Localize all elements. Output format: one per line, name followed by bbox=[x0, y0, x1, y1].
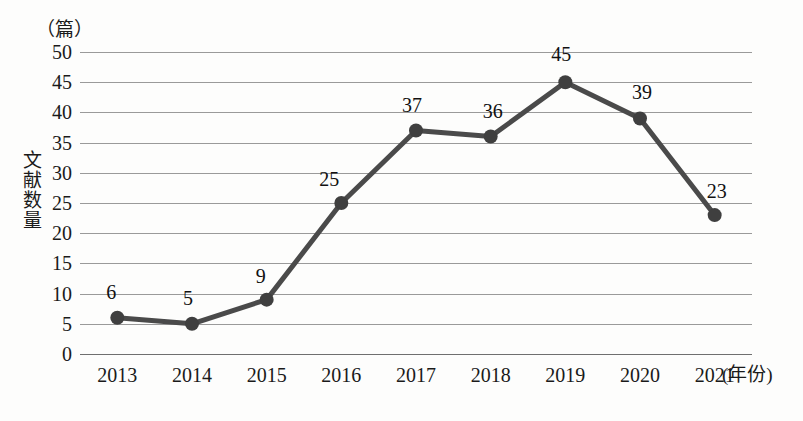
data-label: 25 bbox=[319, 169, 339, 189]
y-axis-tick: 20 bbox=[26, 223, 72, 243]
chart-figure: （篇） 文献数量 50454035302520151050 6592537364… bbox=[0, 0, 803, 421]
x-axis-tick: 2013 bbox=[82, 363, 152, 387]
data-label: 36 bbox=[483, 101, 503, 121]
data-point bbox=[334, 196, 348, 210]
y-axis-tick: 30 bbox=[26, 163, 72, 183]
data-point bbox=[633, 111, 647, 125]
data-point bbox=[558, 75, 572, 89]
data-label: 37 bbox=[402, 95, 422, 115]
plot-area: 659253736453923 bbox=[80, 52, 752, 354]
data-point bbox=[260, 293, 274, 307]
y-axis-tick: 40 bbox=[26, 102, 72, 122]
data-label: 23 bbox=[707, 181, 727, 201]
y-axis-tick-labels: 50454035302520151050 bbox=[22, 52, 72, 354]
y-axis-tick: 0 bbox=[26, 344, 72, 364]
y-axis-tick: 50 bbox=[26, 42, 72, 62]
x-axis-tick: 2015 bbox=[232, 363, 302, 387]
data-label: 45 bbox=[551, 44, 571, 64]
x-axis-unit-label: (年份) bbox=[722, 363, 773, 387]
data-point bbox=[110, 311, 124, 325]
y-axis-tick: 10 bbox=[26, 284, 72, 304]
y-axis-tick: 25 bbox=[26, 193, 72, 213]
x-axis-tick: 2014 bbox=[157, 363, 227, 387]
y-axis-tick: 35 bbox=[26, 133, 72, 153]
data-point bbox=[409, 124, 423, 138]
data-label: 39 bbox=[632, 82, 652, 102]
x-axis-tick: 2016 bbox=[306, 363, 376, 387]
x-axis-tick-labels: 201320142015201620172018201920202021 bbox=[80, 363, 752, 393]
data-point bbox=[708, 208, 722, 222]
x-axis-tick: 2018 bbox=[456, 363, 526, 387]
data-point bbox=[185, 317, 199, 331]
y-axis-tick: 5 bbox=[26, 314, 72, 334]
gridline bbox=[80, 354, 752, 355]
y-axis-unit-label: （篇） bbox=[36, 14, 93, 41]
data-label: 9 bbox=[256, 266, 266, 286]
x-axis-tick: 2017 bbox=[381, 363, 451, 387]
y-axis-tick: 45 bbox=[26, 72, 72, 92]
series-polyline bbox=[117, 82, 714, 324]
data-point bbox=[484, 130, 498, 144]
x-axis-tick: 2019 bbox=[530, 363, 600, 387]
data-label: 5 bbox=[183, 288, 193, 308]
y-axis-tick: 15 bbox=[26, 253, 72, 273]
data-label: 6 bbox=[106, 282, 116, 302]
x-axis-tick: 2020 bbox=[605, 363, 675, 387]
